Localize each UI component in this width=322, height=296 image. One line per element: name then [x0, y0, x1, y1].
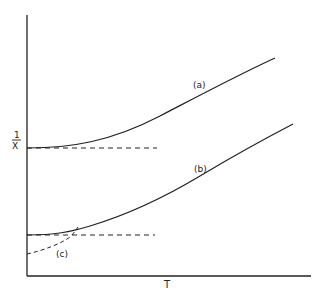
y-axis-label: 1 X [12, 130, 21, 151]
label-a: (a) [193, 80, 206, 90]
x-axis-label: T [163, 279, 171, 290]
label-c: (c) [56, 249, 68, 259]
y-axis-label-numerator: 1 [14, 130, 20, 140]
diagram: (a) (b) (c) T 1 X [0, 0, 322, 296]
y-axis-label-denominator: X [12, 141, 18, 151]
curve-b [27, 124, 293, 235]
label-b: (b) [194, 164, 207, 174]
curve-a [27, 58, 275, 148]
